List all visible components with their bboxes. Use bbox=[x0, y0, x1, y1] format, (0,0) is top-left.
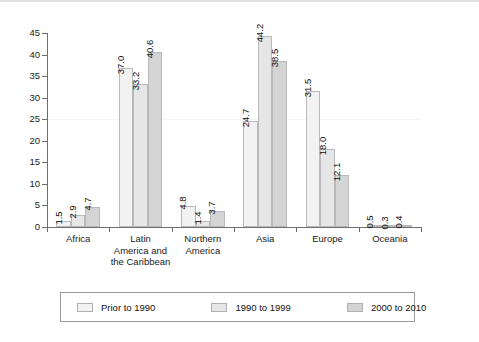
legend-swatch bbox=[211, 303, 227, 312]
bar[interactable] bbox=[272, 61, 287, 227]
y-axis-tick-label: 10 bbox=[2, 179, 40, 188]
bar-value-label: 2.9 bbox=[68, 205, 78, 218]
bar[interactable] bbox=[119, 68, 134, 228]
legend-item[interactable]: 1990 to 1999 bbox=[211, 302, 290, 313]
bar[interactable] bbox=[133, 84, 148, 227]
legend-label: 1990 to 1999 bbox=[235, 302, 290, 313]
x-axis-category-label-line: the Caribbean bbox=[99, 256, 181, 268]
bar-value-label: 0.4 bbox=[394, 216, 404, 229]
bar-group: 1.52.94.7 bbox=[56, 33, 100, 227]
bar-value-label: 31.5 bbox=[303, 79, 313, 98]
y-axis-tick-label: 0 bbox=[2, 222, 40, 231]
chart-legend: Prior to 19901990 to 19992000 to 2010 bbox=[60, 292, 415, 322]
bar-value-label: 1.5 bbox=[54, 211, 64, 224]
bar-value-label: 3.7 bbox=[207, 201, 217, 214]
bar-value-label: 4.8 bbox=[178, 197, 188, 210]
y-axis-tick-label: 35 bbox=[2, 71, 40, 80]
bar-value-label: 12.1 bbox=[332, 163, 342, 182]
y-axis-tick-label: 5 bbox=[2, 200, 40, 209]
bar-value-label: 40.6 bbox=[145, 40, 155, 59]
y-axis-tick-labels: 454035302520151050 bbox=[0, 0, 40, 342]
legend-swatch bbox=[347, 303, 363, 312]
bar-value-label: 1.4 bbox=[193, 211, 203, 224]
bar-value-label: 38.5 bbox=[270, 49, 280, 68]
bar[interactable] bbox=[148, 52, 163, 227]
x-axis-tick bbox=[109, 227, 110, 232]
x-axis-category-label: Oceania bbox=[349, 233, 431, 245]
bar[interactable] bbox=[320, 149, 335, 227]
x-axis-tick bbox=[296, 227, 297, 232]
y-axis-tick-label: 40 bbox=[2, 50, 40, 59]
bar-value-label: 37.0 bbox=[116, 55, 126, 74]
bar[interactable] bbox=[335, 175, 350, 227]
bar-value-label: 18.0 bbox=[318, 137, 328, 156]
legend-label: Prior to 1990 bbox=[101, 302, 155, 313]
y-axis-tick-label: 15 bbox=[2, 157, 40, 166]
bar-value-label: 33.2 bbox=[131, 72, 141, 91]
grouped-bar-chart: 454035302520151050 1.52.94.737.033.240.6… bbox=[0, 0, 479, 342]
bar-value-label: 0.5 bbox=[365, 215, 375, 228]
legend-label: 2000 to 2010 bbox=[371, 302, 426, 313]
bar-group: 0.50.30.4 bbox=[368, 33, 412, 227]
legend-swatch bbox=[77, 303, 93, 312]
y-axis-tick-label: 45 bbox=[2, 28, 40, 37]
bar-value-label: 0.3 bbox=[380, 216, 390, 229]
x-axis-tick bbox=[359, 227, 360, 232]
plot-area: 1.52.94.737.033.240.64.81.43.724.744.238… bbox=[47, 33, 421, 227]
legend-item[interactable]: 2000 to 2010 bbox=[347, 302, 426, 313]
bar-value-label: 24.7 bbox=[241, 108, 251, 127]
x-axis-tick bbox=[421, 227, 422, 232]
legend-items: Prior to 19901990 to 19992000 to 2010 bbox=[61, 293, 414, 321]
x-axis-tick bbox=[172, 227, 173, 232]
x-axis-tick bbox=[47, 227, 48, 232]
y-axis-tick-label: 30 bbox=[2, 93, 40, 102]
x-axis-category-label-line: America bbox=[162, 245, 244, 257]
legend-item[interactable]: Prior to 1990 bbox=[77, 302, 155, 313]
x-axis-tick bbox=[234, 227, 235, 232]
bar[interactable] bbox=[306, 91, 321, 227]
x-axis-category-label-line: Oceania bbox=[349, 233, 431, 245]
bar-group: 37.033.240.6 bbox=[119, 33, 163, 227]
bar-group: 31.518.012.1 bbox=[306, 33, 350, 227]
bar-value-label: 44.2 bbox=[255, 24, 265, 43]
y-axis-tick-label: 25 bbox=[2, 114, 40, 123]
bar-group: 4.81.43.7 bbox=[181, 33, 225, 227]
bar[interactable] bbox=[243, 121, 258, 227]
bar-value-label: 4.7 bbox=[83, 197, 93, 210]
bar-group: 24.744.238.5 bbox=[243, 33, 287, 227]
y-axis-tick-label: 20 bbox=[2, 136, 40, 145]
